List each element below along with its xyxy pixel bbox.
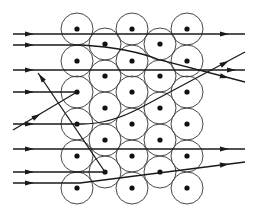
trajectory-slight-deflection bbox=[13, 161, 245, 185]
atom bbox=[116, 108, 148, 140]
nucleus-dot bbox=[74, 153, 79, 158]
nucleus-dot bbox=[102, 105, 107, 110]
nucleus-dot bbox=[129, 153, 134, 158]
trajectory-straight-row-1 bbox=[13, 31, 245, 36]
arrowhead-icon bbox=[220, 73, 230, 80]
atom bbox=[116, 76, 148, 108]
atom bbox=[61, 140, 93, 172]
arrowhead-icon bbox=[25, 31, 34, 36]
trajectory-deflected-up bbox=[13, 52, 245, 127]
atom bbox=[61, 13, 93, 45]
atom bbox=[171, 13, 203, 45]
nucleus-dot bbox=[129, 89, 134, 94]
nucleus-dot bbox=[184, 153, 189, 158]
nucleus-dot bbox=[129, 26, 134, 31]
trajectory-head-on-collision bbox=[13, 89, 77, 94]
arrowhead-icon bbox=[25, 121, 34, 126]
atom bbox=[116, 140, 148, 172]
trajectory-backscattered bbox=[37, 72, 105, 172]
nucleus-dot bbox=[102, 41, 107, 46]
atom bbox=[116, 13, 148, 45]
trajectory-straight-row-3 bbox=[13, 146, 245, 151]
arrowhead-icon bbox=[25, 89, 34, 94]
arrowhead-icon bbox=[31, 112, 41, 121]
lattice-scattering-diagram bbox=[0, 0, 257, 217]
arrowhead-icon bbox=[220, 31, 229, 36]
nucleus-dot bbox=[184, 185, 189, 190]
atom bbox=[61, 45, 93, 77]
nucleus-dot bbox=[102, 137, 107, 142]
nucleus-dot bbox=[184, 121, 189, 126]
nucleus-dot bbox=[74, 26, 79, 31]
atom bbox=[89, 92, 121, 124]
nucleus-dot bbox=[157, 41, 162, 46]
atom bbox=[171, 140, 203, 172]
arrowhead-icon bbox=[25, 42, 34, 47]
nucleus-dot bbox=[157, 73, 162, 78]
nucleus-dot bbox=[184, 89, 189, 94]
atom bbox=[171, 76, 203, 108]
nucleus-dot bbox=[129, 185, 134, 190]
atom bbox=[89, 124, 121, 156]
arrowhead-icon bbox=[25, 169, 34, 174]
arrowhead-icon bbox=[25, 180, 34, 185]
nucleus-dot bbox=[102, 73, 107, 78]
nucleus-dot bbox=[74, 185, 79, 190]
nucleus-dot bbox=[74, 58, 79, 63]
arrowhead-icon bbox=[219, 59, 229, 68]
atom bbox=[171, 45, 203, 77]
nucleus-dot bbox=[157, 137, 162, 142]
arrowhead-icon bbox=[227, 67, 236, 72]
atom bbox=[171, 172, 203, 204]
nucleus-dot bbox=[184, 26, 189, 31]
atom bbox=[61, 172, 93, 204]
nucleus-dot bbox=[184, 58, 189, 63]
arrowhead-icon bbox=[25, 67, 34, 72]
atom bbox=[144, 124, 176, 156]
nucleus-dot bbox=[129, 58, 134, 63]
nucleus-dot bbox=[157, 105, 162, 110]
trajectory-stopped-at-atom bbox=[13, 169, 105, 174]
atom-lattice bbox=[61, 13, 203, 204]
arrowhead-icon bbox=[220, 146, 229, 151]
trajectory-line bbox=[38, 73, 105, 172]
atom bbox=[171, 108, 203, 140]
nucleus-dot bbox=[129, 121, 134, 126]
arrowhead-icon bbox=[25, 146, 34, 151]
